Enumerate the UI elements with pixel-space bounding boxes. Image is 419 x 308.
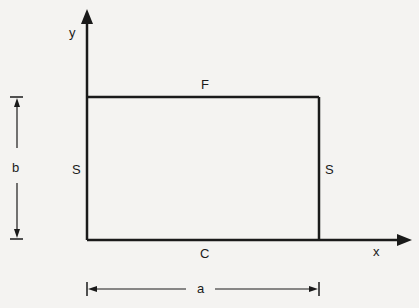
plate-diagram: y x F S S C b a [0,0,419,308]
edge-top-label: F [201,77,209,92]
y-axis-label: y [69,25,76,40]
edge-left-label: S [72,162,81,177]
x-axis-label: x [373,244,380,259]
dim-b-arrow-up-icon [14,98,20,107]
x-axis-arrow-icon [397,234,412,246]
y-axis-arrow-icon [81,9,93,24]
dim-a-label: a [197,281,205,296]
dim-b-arrow-down-icon [14,229,20,238]
dim-b-label: b [12,160,19,175]
dim-a-arrow-right-icon [309,286,318,292]
edge-right-label: S [325,162,334,177]
dim-a-arrow-left-icon [88,286,97,292]
edge-bottom-label: C [200,246,209,261]
diagram: y x F S S C b a [0,0,419,308]
